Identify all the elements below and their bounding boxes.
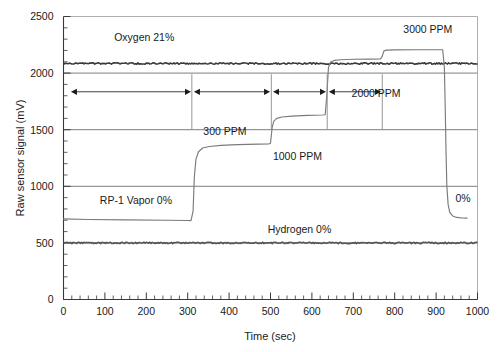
x-tick-label-200: 200 (138, 305, 156, 317)
ppm-1000-label: 1000 PPM (273, 150, 322, 162)
hydrogen-label: Hydrogen 0% (268, 223, 332, 235)
y-tick-label-2500: 2500 (30, 10, 54, 22)
oxygen-label: Oxygen 21% (114, 31, 174, 43)
x-tick-label-800: 800 (386, 305, 404, 317)
x-tick-label-100: 100 (96, 305, 114, 317)
y-tick-label-1500: 1500 (30, 124, 54, 136)
sensor-response-chart: 01002003004005006007008009001000 0500100… (0, 0, 499, 352)
x-tick-label-1000: 1000 (466, 305, 490, 317)
ppm-300-label: 300 PPM (203, 125, 246, 137)
x-tick-label-700: 700 (345, 305, 363, 317)
x-tick-label-300: 300 (179, 305, 197, 317)
ppm-3000-label: 3000 PPM (403, 23, 452, 35)
x-tick-label-900: 900 (427, 305, 445, 317)
y-tick-label-500: 500 (36, 237, 54, 249)
y-tick-label-1000: 1000 (30, 180, 54, 192)
x-axis-label: Time (sec) (244, 330, 296, 342)
y-tick-label-2000: 2000 (30, 67, 54, 79)
ppm-2000-label: 2000 PPM (352, 87, 401, 99)
figure-container: 01002003004005006007008009001000 0500100… (0, 0, 499, 352)
x-tick-label-500: 500 (262, 305, 280, 317)
x-tick-label-0: 0 (61, 305, 67, 317)
x-tick-label-600: 600 (303, 305, 321, 317)
y-axis-label: Raw sensor signal (mV) (14, 100, 26, 217)
rp1-label: RP-1 Vapor 0% (100, 194, 172, 206)
series-line-hydrogen-0 (64, 242, 478, 243)
y-tick-label-0: 0 (48, 293, 54, 305)
zero-percent-label: 0% (455, 192, 470, 204)
x-tick-label-400: 400 (220, 305, 238, 317)
